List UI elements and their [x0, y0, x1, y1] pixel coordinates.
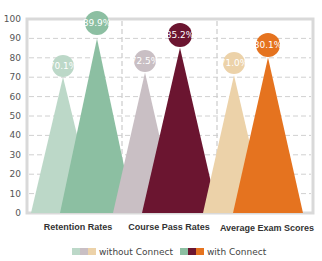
y-tick: 10: [10, 189, 22, 199]
legend: without Connect with Connect: [72, 247, 267, 257]
svg-text:72.5%: 72.5%: [131, 56, 160, 66]
svg-text:70.1%: 70.1%: [49, 61, 78, 71]
y-tick: 70: [10, 72, 22, 82]
legend-swatch-with: [180, 248, 204, 255]
y-tick: 30: [10, 150, 22, 160]
category-label: Average Exam Scores: [220, 223, 314, 233]
svg-text:85.2%: 85.2%: [166, 30, 195, 40]
y-tick: 0: [15, 208, 21, 218]
svg-text:89.9%: 89.9%: [83, 18, 112, 28]
y-tick: 40: [10, 130, 22, 140]
svg-text:71.0%: 71.0%: [220, 58, 249, 68]
triangle-bar-chart: 0 10 20 30 40 50 60 70 80 90 100 70.1% 8…: [0, 0, 322, 261]
y-axis: 0 10 20 30 40 50 60 70 80 90 100: [4, 14, 21, 218]
y-tick: 90: [10, 33, 22, 43]
y-tick: 50: [10, 111, 22, 121]
legend-label-with: with Connect: [207, 247, 267, 257]
legend-label-without: without Connect: [99, 247, 173, 257]
y-tick: 100: [4, 14, 21, 24]
y-tick: 80: [10, 53, 22, 63]
legend-swatch-without: [72, 248, 96, 255]
category-label: Retention Rates: [44, 222, 113, 232]
y-tick: 20: [10, 169, 22, 179]
y-tick: 60: [10, 92, 22, 102]
svg-text:80.1%: 80.1%: [254, 40, 283, 50]
category-label: Course Pass Rates: [128, 222, 210, 232]
